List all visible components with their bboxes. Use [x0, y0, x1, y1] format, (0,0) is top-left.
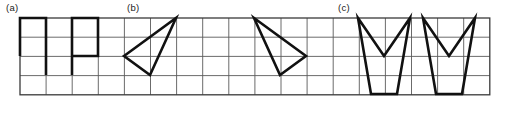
- panel-label-a: (a): [6, 2, 19, 13]
- figure-container: (a)(b)(c): [0, 0, 509, 120]
- panel-label-b: (b): [127, 2, 140, 13]
- stimulus-figure-svg: [0, 0, 509, 120]
- panel-label-c: (c): [338, 2, 350, 13]
